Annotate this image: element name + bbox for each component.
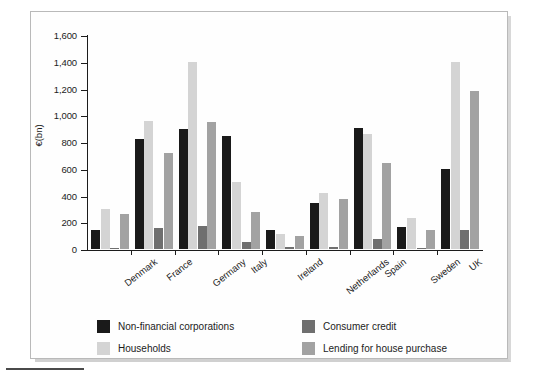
- legend-swatch-consumer-credit: [302, 320, 315, 333]
- bar: [363, 134, 372, 249]
- legend-label-households: Households: [118, 343, 171, 354]
- bar: [460, 230, 469, 249]
- x-axis-tick: [437, 250, 438, 255]
- bar-group: [397, 35, 435, 249]
- x-axis-line: [87, 250, 483, 251]
- x-axis-label-ireland: Ireland: [295, 256, 325, 283]
- bar: [154, 228, 163, 249]
- plot-area: [87, 35, 481, 249]
- x-axis-label-germany: Germany: [210, 256, 248, 289]
- legend-label-consumer-credit: Consumer credit: [323, 321, 396, 332]
- bar: [135, 139, 144, 249]
- legend-row: Households Lending for house purchase: [97, 337, 477, 359]
- x-axis-label-sweden: Sweden: [428, 256, 462, 286]
- bar-group: [91, 35, 129, 249]
- bar-group: [310, 35, 348, 249]
- x-axis-tick: [262, 250, 263, 255]
- chart-figure: €(bn) 02004006008001,0001,2001,4001,600 …: [30, 11, 508, 359]
- bar: [426, 230, 435, 249]
- y-axis-tick-label: 1,400: [37, 57, 77, 68]
- bar: [144, 121, 153, 249]
- bar-group: [222, 35, 260, 249]
- y-axis-tick-label: 800: [37, 137, 77, 148]
- bar: [373, 239, 382, 249]
- x-axis-label-uk: UK: [467, 256, 484, 273]
- x-axis-tick: [175, 250, 176, 255]
- bar: [222, 136, 231, 249]
- bar: [354, 128, 363, 249]
- bar-group: [266, 35, 304, 249]
- x-axis-tick: [218, 250, 219, 255]
- x-axis-tick: [306, 250, 307, 255]
- legend-swatch-non-financial-corporations: [97, 320, 110, 333]
- y-axis-tick-label: 200: [37, 217, 77, 228]
- legend-label-non-financial-corporations: Non-financial corporations: [118, 321, 234, 332]
- x-axis-tick: [131, 250, 132, 255]
- bar: [329, 247, 338, 249]
- x-axis-tick: [350, 250, 351, 255]
- x-axis-label-france: France: [164, 256, 194, 283]
- bar: [441, 169, 450, 249]
- bar-group: [441, 35, 479, 249]
- bar: [164, 153, 173, 249]
- bar: [251, 212, 260, 249]
- bar-group: [135, 35, 173, 249]
- y-axis-tick-label: 600: [37, 164, 77, 175]
- legend-item-consumer-credit: Consumer credit: [302, 320, 396, 333]
- bar: [207, 122, 216, 249]
- legend-item-lending-for-house-purchase: Lending for house purchase: [302, 342, 447, 355]
- bar: [319, 193, 328, 249]
- legend-item-households: Households: [97, 342, 302, 355]
- bar: [242, 242, 251, 249]
- y-axis-tick-label: 0: [37, 244, 77, 255]
- y-axis-tick-label: 400: [37, 191, 77, 202]
- bar: [285, 247, 294, 249]
- bar: [310, 203, 319, 249]
- bar-group: [179, 35, 217, 249]
- bar: [295, 236, 304, 249]
- x-axis-label-netherlands: Netherlands: [344, 256, 391, 296]
- y-axis-tick-label: 1,200: [37, 84, 77, 95]
- bar: [266, 230, 275, 249]
- bar: [198, 226, 207, 249]
- x-axis-label-denmark: Denmark: [122, 256, 159, 288]
- bar: [451, 62, 460, 249]
- bar: [101, 209, 110, 249]
- bar: [232, 182, 241, 249]
- bar: [110, 248, 119, 249]
- bar: [188, 62, 197, 249]
- legend-item-non-financial-corporations: Non-financial corporations: [97, 320, 302, 333]
- chart-legend: Non-financial corporations Consumer cred…: [97, 315, 477, 359]
- scan-artifact-line: [6, 368, 84, 370]
- legend-label-lending-for-house-purchase: Lending for house purchase: [323, 343, 447, 354]
- y-axis-tick-label: 1,000: [37, 110, 77, 121]
- bar: [417, 248, 426, 249]
- bar: [407, 218, 416, 249]
- bar: [470, 91, 479, 249]
- legend-swatch-households: [97, 342, 110, 355]
- bar: [339, 199, 348, 249]
- bar: [179, 129, 188, 249]
- bar: [382, 163, 391, 249]
- legend-swatch-lending-for-house-purchase: [302, 342, 315, 355]
- x-axis-label-italy: Italy: [249, 256, 270, 275]
- x-axis-tick: [393, 250, 394, 255]
- y-axis-tick: [81, 250, 87, 251]
- bar: [91, 230, 100, 249]
- legend-row: Non-financial corporations Consumer cred…: [97, 315, 477, 337]
- bar: [397, 227, 406, 249]
- y-axis-tick-label: 1,600: [37, 30, 77, 41]
- bar: [120, 214, 129, 249]
- bar: [276, 234, 285, 249]
- bar-group: [354, 35, 392, 249]
